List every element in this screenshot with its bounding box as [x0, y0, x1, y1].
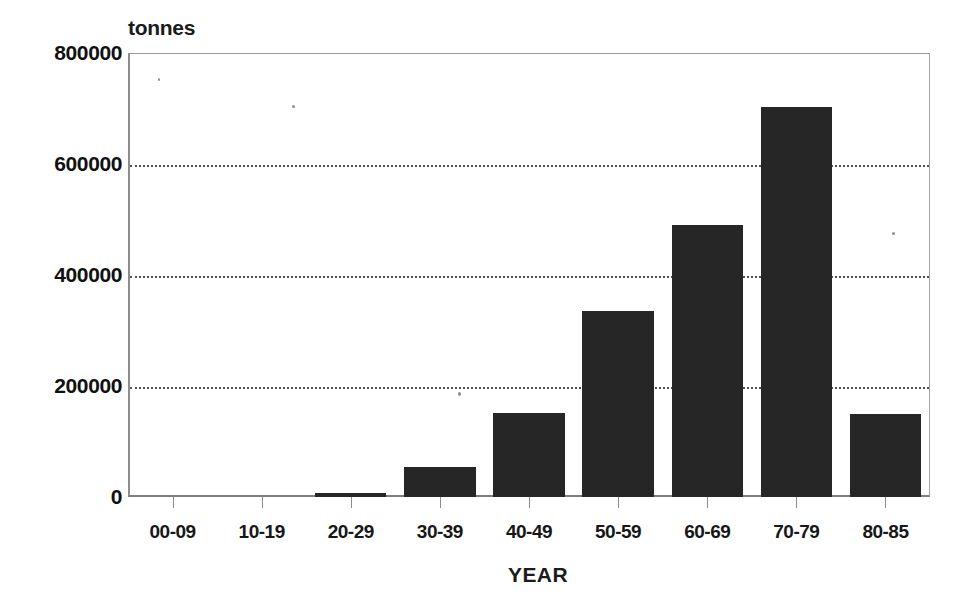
- x-axis-tick-mark: [618, 497, 619, 508]
- bars-layer: [128, 53, 930, 497]
- x-axis-tick-mark: [351, 497, 352, 508]
- x-axis-tick-mark: [707, 497, 708, 508]
- x-axis-title: YEAR: [0, 563, 966, 587]
- x-axis-tick-label: 70-79: [773, 521, 819, 543]
- x-axis-tick-labels: 00-0910-1920-2930-3940-4950-5960-6970-79…: [128, 521, 930, 547]
- x-axis-tick-mark: [529, 497, 530, 508]
- bar-chart-figure: tonnes 0200000400000600000800000 00-0910…: [0, 0, 966, 607]
- x-axis-tick-mark: [885, 497, 886, 508]
- bar: [850, 414, 921, 497]
- bar: [761, 107, 832, 497]
- x-axis-tick-mark: [796, 497, 797, 508]
- y-axis-unit-label: tonnes: [128, 16, 195, 40]
- x-axis-tick-label: 50-59: [595, 521, 641, 543]
- y-axis-tick-label: 0: [4, 485, 122, 509]
- y-axis-tick-label: 400000: [4, 263, 122, 287]
- x-axis-tick-label: 00-09: [149, 521, 195, 543]
- x-axis-title-text: YEAR: [508, 563, 568, 586]
- x-axis-tick-mark: [173, 497, 174, 508]
- x-axis-tick-marks: [128, 497, 930, 509]
- y-axis-tick-label: 200000: [4, 374, 122, 398]
- bar: [493, 413, 564, 497]
- x-axis-tick-label: 10-19: [239, 521, 285, 543]
- x-axis-tick-label: 20-29: [328, 521, 374, 543]
- x-axis-tick-label: 60-69: [684, 521, 730, 543]
- x-axis-tick-mark: [262, 497, 263, 508]
- x-axis-tick-label: 30-39: [417, 521, 463, 543]
- y-axis-tick-label: 800000: [4, 41, 122, 65]
- bar: [582, 311, 653, 497]
- x-axis-tick-label: 40-49: [506, 521, 552, 543]
- y-axis-tick-label: 600000: [4, 152, 122, 176]
- y-axis-tick-labels: 0200000400000600000800000: [0, 0, 122, 607]
- x-axis-tick-label: 80-85: [862, 521, 908, 543]
- x-axis-tick-mark: [440, 497, 441, 508]
- bar: [672, 225, 743, 497]
- bar: [404, 467, 475, 497]
